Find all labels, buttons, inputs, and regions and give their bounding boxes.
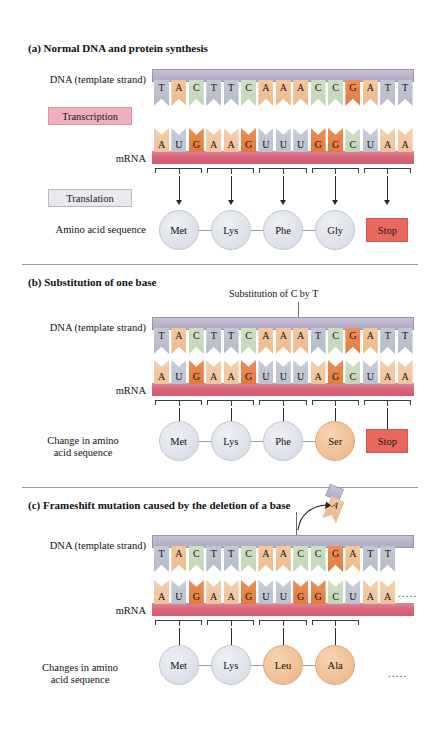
panel-b-codon-stem-4 [387,400,388,406]
panel-b-mrna-base-1: U [171,360,186,384]
panel-c-title: (c) Frameshift mutation caused by the de… [28,499,290,511]
panel-c-mrna-base-1: U [171,580,186,604]
panel-c-dna-base-12: T [363,546,378,572]
panel-a-mrna-base-7-letter: U [276,137,291,152]
panel-c-dna-base-4-letter: T [224,546,239,561]
panel-c-aa-ellipsis: ..... [388,668,408,679]
panel-b-mrna-base-6-letter: U [258,369,273,384]
panel-c-dna-base-8: C [293,546,308,572]
panel-b-aa-label-line1: Change in amino [47,435,119,446]
panel-b-dna-base-3: T [206,328,221,354]
panel-b-dna-base-0-letter: T [154,328,169,343]
panel-b-mrna-base-14-letter: A [398,369,413,384]
panel-c-codon-stem-2 [283,620,284,626]
panel-c-mrna-base-4-letter: A [224,589,239,604]
panel-a-mrna-base-13: A [380,128,395,152]
deletion-arrow-icon [296,500,332,532]
panel-b-mrna-base-14: A [398,360,413,384]
panel-a-mrna-base-5-letter: G [241,137,256,152]
panel-a-dna-base-13: T [380,80,395,106]
panel-a-mrna-base-12-letter: U [363,137,378,152]
panel-c-dna-base-5: C [241,546,256,572]
panel-c-dna-base-13-letter: T [380,546,395,561]
panel-a-dna-base-5-letter: C [241,80,256,95]
panel-c-dna-base-10: G [328,546,343,572]
panel-a-amino-acid-met: Met [159,210,199,250]
panel-a-amino-acid-phe: Phe [263,210,303,250]
panel-a-dna-base-14-letter: T [398,80,413,95]
panel-a-dna-base-0-letter: T [154,80,169,95]
panel-c-dna-base-5-letter: C [241,546,256,561]
panel-b-mrna-base-0: A [154,360,169,384]
panel-a-dna-base-9-letter: C [311,80,326,95]
panel-b-dna-label: DNA (template strand) [0,322,146,334]
panel-b-dna-base-1-letter: A [171,328,186,343]
panel-a-mrna-base-6: U [258,128,273,152]
panel-b-dna-base-2-letter: C [189,328,204,343]
panel-c-mrna-base-11: U [345,580,360,604]
panel-c-mrna-base-1-letter: U [171,589,186,604]
panel-c-amino-acid-lys: Lys [211,645,251,685]
panel-b-amino-acid-ser: Ser [315,421,355,461]
panel-c-aa-label: Changes in amino acid sequence [14,662,146,686]
panel-c-aa-label-line2: acid sequence [51,674,110,685]
panel-c-dna-base-11: A [345,546,360,572]
panel-b-dna-base-12-letter: A [363,328,378,343]
panel-a-aa-label: Amino acid sequence [0,224,146,236]
panel-b-dna-base-7-letter: A [276,328,291,343]
panel-c-dna-base-6-letter: A [258,546,273,561]
panel-b-aa-label: Change in amino acid sequence [20,435,146,459]
panel-a-dna-base-13-letter: T [380,80,395,95]
panel-b-mrna-base-5: G [241,360,256,384]
panel-c-dna-base-6: A [258,546,273,572]
panel-a-dna-base-4: T [224,80,239,106]
panel-a-dna-base-8-letter: A [293,80,308,95]
panel-b-amino-acid-met: Met [159,421,199,461]
panel-c-mrna-base-13: A [380,580,395,604]
panel-c-dna-base-10-letter: G [328,546,343,561]
panel-b-mrna-base-2-letter: G [189,369,204,384]
panel-b-mrna-base-2: G [189,360,204,384]
panel-c-mrna-base-7-letter: U [276,589,291,604]
panel-a-title: (a) Normal DNA and protein synthesis [28,42,208,54]
panel-b-dna-base-11-letter: G [345,328,360,343]
panel-c-mrna-base-5: G [241,580,256,604]
panel-b-mrna-base-8-letter: U [293,369,308,384]
panel-b-codon-stem-1 [231,400,232,406]
panel-b-dna-base-3-letter: T [206,328,221,343]
panel-c-mrna-base-11-letter: U [345,589,360,604]
panel-c-marker: (c) [28,499,40,511]
panel-b-title-text: Substitution of one base [44,276,156,288]
panel-c-dna-base-3: T [206,546,221,572]
panel-c-dna-base-3-letter: T [206,546,221,561]
panel-c-mrna-base-2: G [189,580,204,604]
panel-a-dna-label: DNA (template strand) [0,74,146,86]
panel-c-dna-base-13: T [380,546,395,572]
panel-b-mrna-base-9-letter: A [311,369,326,384]
panel-a-dna-base-4-letter: T [224,80,239,95]
panel-a-dna-base-1: A [171,80,186,106]
panel-a-dna-base-11: G [345,80,360,106]
panel-b-dna-base-6-letter: A [258,328,273,343]
panel-c-dna-base-1-letter: A [171,546,186,561]
panel-b-dna-base-14-letter: T [398,328,413,343]
panel-b-dna-base-8: A [293,328,308,354]
panel-c-dna-base-7: A [276,546,291,572]
panel-a-mrna-base-8: U [293,128,308,152]
panel-a-dna-base-1-letter: A [171,80,186,95]
panel-a-mrna-base-4: A [224,128,239,152]
panel-c-mrna-base-10-letter: C [328,589,343,604]
panel-a-mrna-base-2-letter: G [189,137,204,152]
panel-a-mrna-base-1: U [171,128,186,152]
panel-c-aa-link-1 [199,665,212,666]
panel-a-mrna-base-11: C [345,128,360,152]
panel-b-dna-base-13-letter: T [380,328,395,343]
panel-a-dna-base-7-letter: A [276,80,291,95]
panel-c-mrna-base-12-letter: A [363,589,378,604]
panel-c-mrna-base-12: A [363,580,378,604]
panel-b-dna-base-1: A [171,328,186,354]
panel-b-mrna-base-13: A [380,360,395,384]
panel-a-mrna-base-14: A [398,128,413,152]
panel-b-stop-codon: Stop [366,429,408,453]
panel-c-codon-stem-0 [179,620,180,626]
